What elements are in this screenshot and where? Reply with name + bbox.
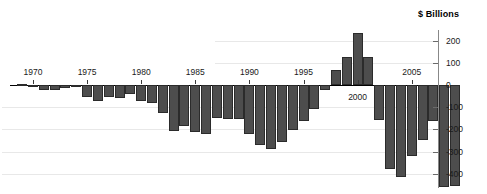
bar xyxy=(244,85,254,134)
gridline--200 xyxy=(2,129,438,130)
bar xyxy=(396,85,406,177)
x-tick-1975 xyxy=(87,80,88,84)
gridline--400 xyxy=(2,174,438,175)
bar xyxy=(212,85,222,118)
bar xyxy=(299,85,309,121)
bar xyxy=(331,70,341,85)
x-tick-label: 1980 xyxy=(132,68,151,77)
x-tick-label: 1995 xyxy=(294,68,313,77)
x-tick-label: 1975 xyxy=(78,68,97,77)
x-tick-1995 xyxy=(304,80,305,84)
x-tick-2005 xyxy=(412,80,413,84)
x-tick-label: 1970 xyxy=(24,68,43,77)
y-axis-title: $ Billions xyxy=(418,9,459,19)
bar xyxy=(71,85,81,87)
bar xyxy=(28,85,38,87)
bar xyxy=(255,85,265,145)
gridline-100 xyxy=(215,63,438,64)
bar xyxy=(147,85,157,103)
bar xyxy=(363,57,373,85)
y-tick-label: 0 xyxy=(446,81,451,90)
x-tick-label: 2005 xyxy=(402,68,421,77)
bar xyxy=(385,85,395,169)
bar xyxy=(374,85,384,120)
bar xyxy=(353,33,363,85)
bar xyxy=(309,85,319,109)
y-tick-label: -200 xyxy=(446,125,463,134)
y-tick-label: 100 xyxy=(446,59,460,68)
bar xyxy=(179,85,189,126)
x-tick-label: 2000 xyxy=(348,93,367,102)
bar xyxy=(104,85,114,97)
x-tick-label: 1990 xyxy=(240,68,259,77)
y-tick-label: -400 xyxy=(446,170,463,179)
bar xyxy=(158,85,168,113)
bar xyxy=(223,85,233,119)
bar xyxy=(418,85,428,140)
y-tick--300 xyxy=(433,152,438,153)
y-tick-200 xyxy=(433,41,438,42)
gridline-200 xyxy=(215,41,438,42)
bar xyxy=(125,85,135,94)
bar xyxy=(266,85,276,149)
bar xyxy=(288,85,298,130)
x-tick-label: 1985 xyxy=(186,68,205,77)
bar xyxy=(428,85,438,121)
y-axis-line xyxy=(438,30,439,188)
bar xyxy=(190,85,200,132)
y-tick-label: -100 xyxy=(446,103,463,112)
bar xyxy=(60,85,70,88)
bar xyxy=(50,85,60,90)
y-tick-label: 200 xyxy=(446,37,460,46)
bar xyxy=(320,85,330,90)
bar xyxy=(136,85,146,101)
bar xyxy=(277,85,287,142)
bar xyxy=(17,84,27,86)
y-tick-label: -300 xyxy=(446,148,463,157)
bar xyxy=(201,85,211,134)
budget-deficit-chart: 2001000-100-200-300-40019701975198019851… xyxy=(0,0,487,194)
y-tick--400 xyxy=(433,174,438,175)
bar xyxy=(93,85,103,101)
gridline--300 xyxy=(2,152,438,153)
y-tick--200 xyxy=(433,129,438,130)
bar xyxy=(342,57,352,85)
x-tick-1980 xyxy=(141,80,142,84)
bar xyxy=(39,85,49,90)
bar xyxy=(407,85,417,156)
plot-area: 2001000-100-200-300-40019701975198019851… xyxy=(0,0,487,194)
bar xyxy=(169,85,179,131)
x-tick-2000 xyxy=(358,80,359,84)
x-tick-1985 xyxy=(195,80,196,84)
bar xyxy=(82,85,92,97)
x-tick-1970 xyxy=(33,80,34,84)
bar xyxy=(115,85,125,98)
bar xyxy=(234,85,244,119)
x-tick-1990 xyxy=(249,80,250,84)
y-tick--100 xyxy=(433,107,438,108)
y-tick-100 xyxy=(433,63,438,64)
